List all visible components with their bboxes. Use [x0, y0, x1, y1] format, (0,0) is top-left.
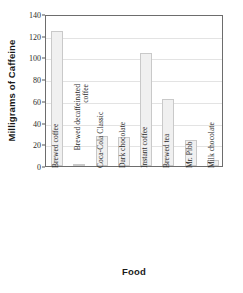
y-axis-tick-label: 0 [37, 163, 41, 172]
x-axis-category-label-text: Milk chocolate [208, 122, 216, 168]
caffeine-bar-chart: Milligrams of Caffeine 02040608010012014… [0, 0, 243, 293]
y-axis-tick-label: 120 [29, 32, 41, 41]
y-axis-tick-label: 100 [29, 54, 41, 63]
x-axis-category-label-text: Instant coffee [141, 127, 149, 168]
x-axis-category-label-text: Coca-Cola Classic [97, 112, 105, 168]
x-axis-category-label-text: Brewed decaffeinated coffee [74, 84, 91, 168]
x-axis-category-labels: Brewed coffeeBrewed decaffeinated coffee… [45, 168, 223, 256]
x-axis-title: Food [45, 266, 223, 277]
y-axis-tick-label: 140 [29, 11, 41, 20]
y-axis-tick-label: 20 [33, 141, 41, 150]
y-axis-title-text: Milligrams of Caffeine [6, 39, 17, 141]
y-axis-tick-label: 80 [33, 76, 41, 85]
x-axis-category-label-text: Brewed tea [163, 134, 171, 168]
y-axis-title: Milligrams of Caffeine [0, 0, 22, 180]
x-axis-category-label-text: Mr. Pibb [186, 141, 194, 168]
plot-area [45, 15, 223, 167]
x-axis-category-label-text: Brewed coffee [52, 124, 60, 168]
y-axis-ticks: 020406080100120140 [22, 15, 45, 167]
y-axis-tick-label: 40 [33, 119, 41, 128]
y-axis-tick-label: 60 [33, 97, 41, 106]
x-axis-category-label: Milk chocolate [208, 168, 243, 254]
x-axis-category-label-text: Dark chocolate [119, 122, 127, 168]
